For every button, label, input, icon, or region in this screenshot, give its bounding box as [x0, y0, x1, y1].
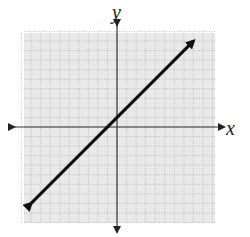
y-axis-label: y: [112, 2, 121, 22]
grid-background: [24, 33, 215, 223]
coordinate-plane: [0, 0, 250, 237]
x-axis-label: x: [226, 118, 235, 138]
